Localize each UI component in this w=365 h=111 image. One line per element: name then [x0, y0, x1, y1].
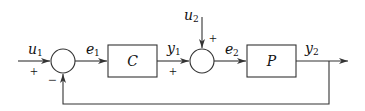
- label-e2: e 2: [225, 41, 239, 58]
- block-p-label: P: [266, 53, 277, 69]
- svg-text:1: 1: [94, 48, 100, 58]
- feedback-line: [63, 61, 329, 104]
- block-c-label: C: [127, 53, 138, 69]
- label-u2: u 2: [184, 7, 199, 24]
- svg-text:u: u: [184, 7, 193, 23]
- svg-text:2: 2: [233, 48, 239, 58]
- label-u1: u 1: [28, 41, 43, 58]
- sign-y1-plus: +: [169, 64, 177, 79]
- svg-text:u: u: [28, 41, 37, 57]
- svg-text:2: 2: [193, 14, 199, 24]
- summing-junction-2: [190, 49, 214, 73]
- sign-feedback-minus: −: [48, 72, 56, 88]
- svg-text:2: 2: [313, 47, 319, 57]
- svg-text:1: 1: [175, 47, 181, 57]
- svg-text:1: 1: [37, 48, 43, 58]
- sign-u1-plus: +: [30, 64, 38, 79]
- label-y1: y 1: [166, 40, 181, 57]
- sign-u2-plus: +: [209, 31, 217, 46]
- label-e1: e 1: [86, 41, 100, 58]
- summing-junction-1: [51, 49, 75, 73]
- feedback-block-diagram: C P u 1 e 1 y 1 u 2 e 2 y 2 + − + +: [0, 0, 365, 111]
- label-y2: y 2: [304, 40, 319, 57]
